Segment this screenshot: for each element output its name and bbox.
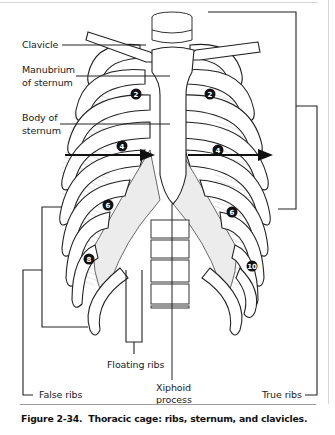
svg-text:6: 6 xyxy=(230,209,235,217)
top-vertebra xyxy=(152,12,192,43)
svg-text:6: 6 xyxy=(106,202,111,210)
svg-text:10: 10 xyxy=(247,263,257,271)
vertebral-column xyxy=(151,220,189,308)
marker-left-4: 4 xyxy=(117,141,128,152)
thoracic-cage-illustration: 2 2 4 4 6 6 8 10 xyxy=(0,0,335,405)
marker-left-2: 2 xyxy=(131,89,142,100)
label-manubrium-line1: Manubrium xyxy=(22,64,75,76)
figure-caption-text: Thoracic cage: ribs, sternum, and clavic… xyxy=(88,413,307,424)
marker-right-4: 4 xyxy=(213,145,224,156)
floating-ribs-bracket xyxy=(126,270,142,354)
svg-text:4: 4 xyxy=(120,143,125,151)
marker-left-6: 6 xyxy=(103,200,114,211)
label-manubrium-line2: of sternum xyxy=(22,77,73,89)
marker-right-2: 2 xyxy=(205,89,216,100)
svg-text:4: 4 xyxy=(216,147,221,155)
figure-number: Figure 2-34. xyxy=(21,413,82,424)
marker-left-8: 8 xyxy=(84,254,95,265)
label-clavicle: Clavicle xyxy=(22,39,58,51)
label-xiphoid-line1: Xiphoid xyxy=(156,382,191,394)
figure-caption: Figure 2-34.Thoracic cage: ribs, sternum… xyxy=(21,413,307,424)
svg-text:2: 2 xyxy=(134,91,139,99)
marker-right-6: 6 xyxy=(227,207,238,218)
caption-divider xyxy=(20,404,316,405)
svg-text:2: 2 xyxy=(208,91,213,99)
label-body-line1: Body of xyxy=(22,112,57,124)
label-true-ribs: True ribs xyxy=(262,389,302,401)
label-body-line2: sternum xyxy=(22,125,61,137)
label-floating-ribs: Floating ribs xyxy=(107,359,164,371)
marker-right-10: 10 xyxy=(247,261,258,272)
label-false-ribs: False ribs xyxy=(39,389,82,401)
svg-text:8: 8 xyxy=(87,256,92,264)
